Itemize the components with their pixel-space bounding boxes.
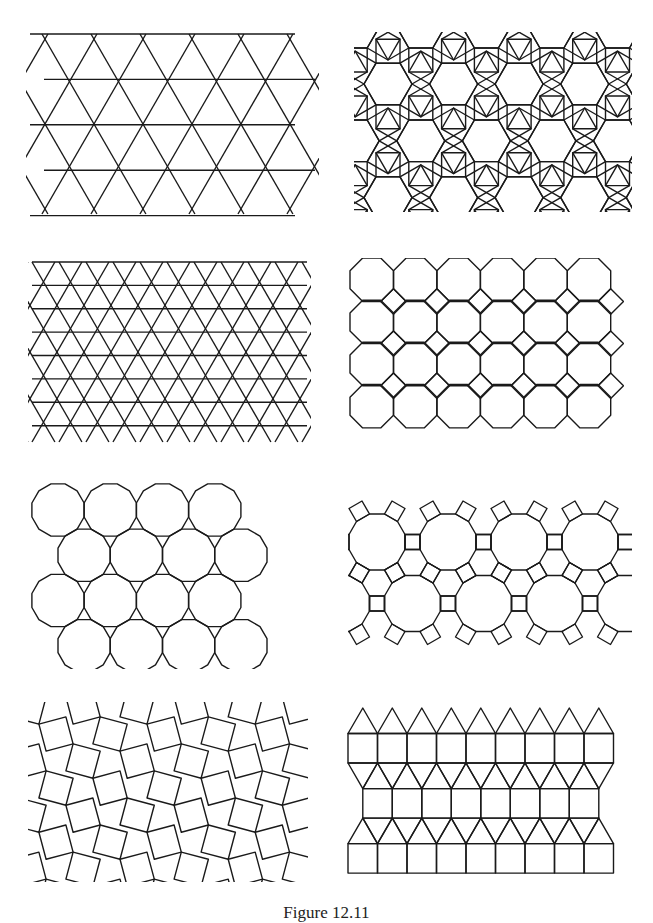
- tiling-trihexagonal: [30, 34, 315, 214]
- tiling-panel-truncated-hexagonal: [30, 480, 298, 665]
- figure-caption: Figure 12.11: [0, 903, 653, 923]
- tiling-truncated-trihexagonal: [352, 478, 628, 658]
- tiling-truncated-hexagonal: [30, 480, 298, 665]
- tiling-snub-square: [32, 706, 304, 878]
- tiling-panel-truncated-square: [350, 262, 620, 440]
- tiling-snub-hexagonal-variant: [32, 262, 307, 442]
- tiling-panel-truncated-trihexagonal: [352, 478, 628, 658]
- tiling-truncated-square: [350, 262, 620, 440]
- tiling-rhombitrihexagonal: [358, 36, 628, 208]
- tiling-panel-triangles-hexagons: [32, 262, 307, 442]
- tiling-panel-trihexagonal: [30, 34, 315, 214]
- tiling-panel-rhombitrihexagonal: [358, 36, 628, 208]
- tiling-panel-elongated-triangular: [348, 708, 620, 884]
- tiling-panel-snub-square: [32, 706, 304, 878]
- tiling-elongated-triangular: [348, 708, 620, 884]
